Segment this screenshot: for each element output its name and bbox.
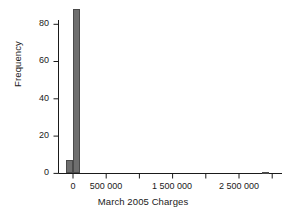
x-tick-label-0: 0 xyxy=(70,181,75,191)
y-tick-label-20: 20 xyxy=(23,130,49,140)
y-tick-label-40: 40 xyxy=(23,93,49,103)
plot-area: 80 60 40 20 0 0 500 000 1 500 000 2 500 … xyxy=(0,0,286,219)
x-axis-title: March 2005 Charges xyxy=(0,196,286,207)
y-tick-marks xyxy=(54,24,59,173)
x-tick-marks xyxy=(73,174,272,179)
histogram-bar-near-zero-low-bin xyxy=(66,160,73,173)
x-tick-label-2500000: 2 500 000 xyxy=(219,181,259,191)
histogram-figure: Frequency xyxy=(0,0,286,219)
histogram-bar-outlier-bin xyxy=(262,172,269,174)
y-tick-label-0: 0 xyxy=(23,167,49,177)
x-tick-label-1500000: 1 500 000 xyxy=(152,181,192,191)
y-tick-label-60: 60 xyxy=(23,55,49,65)
y-tick-label-80: 80 xyxy=(23,18,49,28)
histogram-bar-zero-bin-tall xyxy=(73,9,80,173)
x-tick-label-500000: 500 000 xyxy=(90,181,123,191)
